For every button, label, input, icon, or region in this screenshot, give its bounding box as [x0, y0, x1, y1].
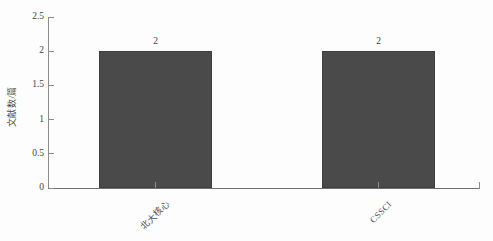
bar-chart-figure: 文献数/篇 00.511.522.5 22 北大核心CSSCI [0, 0, 493, 241]
y-axis-tick-label: 1 [18, 115, 44, 125]
y-axis-tick-label-text: 1.5 [18, 80, 44, 90]
y-axis-tick-label-text: 0 [18, 183, 44, 193]
y-axis-label: 文献数/篇 [2, 66, 20, 146]
y-axis-tick-label: 0.5 [18, 149, 44, 159]
y-axis-tick-label: 0 [18, 183, 44, 193]
y-axis-tick-label: 2.5 [18, 12, 44, 22]
x-axis-end-cap [479, 182, 480, 189]
bar-value-label: 2 [99, 37, 212, 47]
x-axis-line [48, 188, 480, 189]
bar-value-label: 2 [322, 37, 435, 47]
y-axis-tick-label-text: 0.5 [18, 149, 44, 159]
x-axis-tick [155, 182, 156, 188]
x-category-label: CSSCI [307, 193, 387, 209]
x-category-label-text: 北大核心 [137, 197, 172, 232]
y-axis-tick-label: 2 [18, 46, 44, 56]
y-axis-tick [49, 188, 54, 189]
y-axis-tick-label-text: 2.5 [18, 12, 44, 22]
y-axis-tick [49, 119, 54, 120]
y-axis-tick [49, 17, 54, 18]
y-axis-line [48, 17, 49, 189]
x-category-label-text: CSSCI [368, 199, 394, 225]
bar [322, 51, 435, 188]
x-axis-tick [378, 182, 379, 188]
y-axis-tick-label: 1.5 [18, 80, 44, 90]
x-category-label: 北大核心 [84, 193, 164, 209]
y-axis-label-text: 文献数/篇 [5, 85, 18, 126]
y-axis-tick [49, 153, 54, 154]
bar [99, 51, 212, 188]
y-axis-tick [49, 85, 54, 86]
y-axis-tick-label-text: 1 [18, 115, 44, 125]
y-axis-tick [49, 51, 54, 52]
y-axis-tick-label-text: 2 [18, 46, 44, 56]
